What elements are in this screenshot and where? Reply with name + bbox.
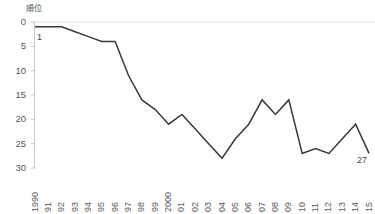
x-axis-tick-label: 96: [111, 202, 120, 212]
x-axis-tick-label: 05: [231, 202, 240, 212]
data-point-value-label: 1: [37, 33, 42, 42]
y-axis-tick-label: 15: [4, 90, 26, 100]
y-axis-tick-label: 20: [4, 114, 26, 124]
x-axis-tick-label: 04: [218, 202, 227, 212]
x-axis-tick-label: 03: [204, 202, 213, 212]
chart-plot-area: [0, 0, 375, 214]
x-axis-tick-label: 94: [84, 202, 93, 212]
data-series-line: [35, 27, 369, 158]
x-axis-tick-label: 09: [284, 202, 293, 212]
x-axis-tick-label: 06: [244, 202, 253, 212]
data-point-value-label: 27: [357, 156, 367, 165]
x-axis-tick-label: 01: [177, 202, 186, 212]
x-axis-tick-label: 98: [137, 202, 146, 212]
x-axis-tick-label: 15: [365, 202, 374, 212]
x-axis-tick-label: 93: [71, 202, 80, 212]
y-axis-tick-label: 10: [4, 66, 26, 76]
x-axis-tick-label: 99: [151, 202, 160, 212]
x-axis-tick-label: 02: [191, 202, 200, 212]
x-axis-tick-label: 08: [271, 202, 280, 212]
x-axis-tick-label: 07: [258, 202, 267, 212]
x-axis-tick-label: 10: [298, 202, 307, 212]
y-axis-tick-label: 25: [4, 139, 26, 149]
x-axis-tick-label: 12: [324, 202, 333, 212]
y-axis-tick-label: 30: [4, 163, 26, 173]
x-axis-tick-label: 11: [311, 203, 320, 212]
x-axis-tick-label: 2000: [164, 192, 173, 212]
x-axis-tick-label: 14: [351, 202, 360, 212]
x-axis-tick-label: 92: [57, 202, 66, 212]
x-axis-tick-label: 95: [97, 202, 106, 212]
y-axis-tick-label: 0: [4, 17, 26, 27]
x-axis-tick-label: 13: [338, 202, 347, 212]
y-axis-tick-label: 5: [4, 41, 26, 51]
x-axis-tick-label: 97: [124, 202, 133, 212]
x-axis-tick-label: 91: [44, 202, 53, 212]
x-axis-tick-label: 1990: [31, 192, 40, 212]
y-axis-tick-labels: 051015202530: [0, 0, 26, 214]
rank-line-chart: 順位 051015202530 199091929394959697989920…: [0, 0, 375, 214]
